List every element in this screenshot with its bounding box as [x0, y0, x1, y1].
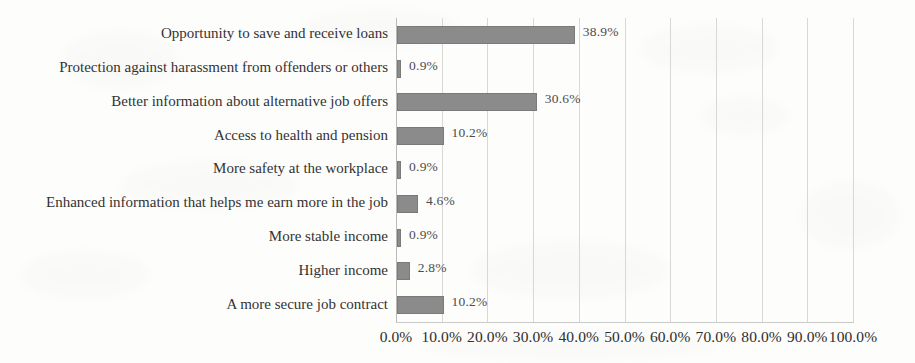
category-axis-labels: Opportunity to save and receive loansPro…	[0, 18, 388, 322]
x-tick-label: 80.0%	[741, 328, 782, 346]
bar-value-label: 0.9%	[409, 227, 438, 243]
category-label-row: More stable income	[0, 221, 388, 255]
bar-value-label: 0.9%	[409, 159, 438, 175]
x-axis-tick-labels: 0.0%10.0%20.0%30.0%40.0%50.0%60.0%70.0%8…	[0, 328, 915, 352]
category-label: A more secure job contract	[226, 296, 388, 313]
bar[interactable]	[397, 296, 444, 314]
x-tick-label: 50.0%	[604, 328, 645, 346]
x-tick-label: 10.0%	[421, 328, 462, 346]
category-label: Opportunity to save and receive loans	[161, 25, 388, 42]
bar[interactable]	[397, 26, 575, 44]
category-label-row: Better information about alternative job…	[0, 86, 388, 120]
bar[interactable]	[397, 262, 410, 280]
category-label-row: Protection against harassment from offen…	[0, 52, 388, 86]
category-label: More safety at the workplace	[213, 160, 388, 177]
category-label-row: Higher income	[0, 254, 388, 288]
bar[interactable]	[397, 229, 401, 247]
bar-row: 2.8%	[396, 254, 853, 288]
bar[interactable]	[397, 127, 444, 145]
x-tick-label: 100.0%	[829, 328, 877, 346]
category-label: Better information about alternative job…	[111, 93, 388, 110]
bar-row: 38.9%	[396, 18, 853, 52]
category-label: More stable income	[269, 228, 388, 245]
bar[interactable]	[397, 93, 537, 111]
bar-row: 30.6%	[396, 86, 853, 120]
x-tick-label: 20.0%	[467, 328, 508, 346]
category-label: Higher income	[298, 262, 388, 279]
bar-row: 10.2%	[396, 288, 853, 322]
x-tick-label: 40.0%	[559, 328, 600, 346]
bar[interactable]	[397, 60, 401, 78]
category-label: Access to health and pension	[214, 127, 388, 144]
x-tick-label: 70.0%	[696, 328, 737, 346]
bar-value-label: 30.6%	[545, 91, 581, 107]
x-tick-label: 60.0%	[650, 328, 691, 346]
horizontal-bar-chart: Opportunity to save and receive loansPro…	[0, 0, 915, 363]
category-label-row: Opportunity to save and receive loans	[0, 18, 388, 52]
bar-row: 10.2%	[396, 119, 853, 153]
bar-value-label: 0.9%	[409, 58, 438, 74]
bar[interactable]	[397, 195, 418, 213]
bar-value-label: 38.9%	[583, 24, 619, 40]
x-axis-line	[396, 322, 854, 323]
x-tick-label: 0.0%	[380, 328, 413, 346]
x-tick-label: 90.0%	[787, 328, 828, 346]
bar-row: 0.9%	[396, 221, 853, 255]
category-label-row: Access to health and pension	[0, 119, 388, 153]
bar-row: 0.9%	[396, 153, 853, 187]
bar-value-label: 10.2%	[452, 294, 488, 310]
x-tick-label: 30.0%	[513, 328, 554, 346]
category-label-row: A more secure job contract	[0, 288, 388, 322]
category-label: Protection against harassment from offen…	[59, 59, 388, 76]
bar-value-label: 2.8%	[418, 260, 447, 276]
gridline	[853, 18, 854, 322]
bar-value-label: 4.6%	[426, 193, 455, 209]
bar-value-label: 10.2%	[452, 125, 488, 141]
category-label-row: Enhanced information that helps me earn …	[0, 187, 388, 221]
category-label: Enhanced information that helps me earn …	[46, 194, 388, 211]
bar-row: 4.6%	[396, 187, 853, 221]
bar-row: 0.9%	[396, 52, 853, 86]
category-label-row: More safety at the workplace	[0, 153, 388, 187]
plot-area: 38.9%0.9%30.6%10.2%0.9%4.6%0.9%2.8%10.2%	[396, 18, 853, 322]
bar[interactable]	[397, 161, 401, 179]
